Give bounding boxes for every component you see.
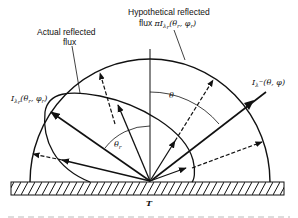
surface — [11, 182, 284, 195]
hypothetical-flux-arrows — [33, 73, 262, 168]
incident-intensity-label: Iλ−(θ, φ) — [251, 78, 285, 88]
hypothetical-label-line2: flux πIλr(θr, φr) — [139, 18, 196, 30]
theta-label: θ — [169, 91, 174, 100]
theta-r-arc — [105, 126, 150, 148]
theta-arc — [150, 92, 219, 124]
reflected-intensity-label: Iλr(θr, φr) — [10, 94, 47, 105]
reflection-diagram: Hypothetical reflected flux πIλr(θr, φr)… — [0, 0, 298, 218]
actual-flux-lobe — [45, 93, 195, 182]
hypothetical-label-line1: Hypothetical reflected — [128, 7, 210, 17]
hypothetical-leader — [174, 30, 185, 60]
actual-label-line1: Actual reflected — [37, 27, 96, 37]
actual-label-line2: flux — [63, 37, 77, 47]
theta-r-label: θr — [114, 140, 122, 150]
surface-temperature-label: T — [146, 198, 153, 208]
